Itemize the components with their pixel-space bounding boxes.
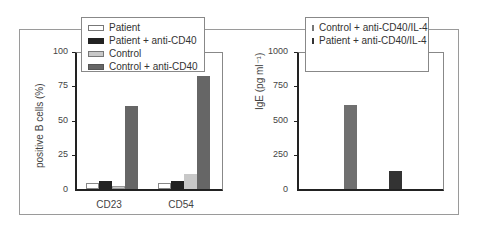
bar-control-anti-cd40-il4 <box>344 105 357 189</box>
legend-item-patient-anti-cd40-il4: Patient + anti-CD40/IL-4 <box>312 34 422 47</box>
right-tick-label-1000: 1000 <box>258 46 288 56</box>
bar-cd54-control <box>184 174 197 189</box>
legend-item-patient: Patient <box>88 21 198 34</box>
legend-swatch-icon <box>312 38 314 44</box>
legend-item-control: Control <box>88 47 198 60</box>
right-tick-label-0: 0 <box>258 184 288 194</box>
legend-label: Patient <box>109 22 140 33</box>
bar-cd54-patient-anti-cd40 <box>171 181 184 189</box>
right-plot-area <box>297 52 444 191</box>
bar-cd23-patient-anti-cd40 <box>99 181 112 189</box>
legend-item-control-anti-cd40-il4: Control + anti-CD40/IL-4 <box>312 21 422 34</box>
legend-label: Patient + anti-CD40 <box>109 35 197 46</box>
left-x-label-cd23: CD23 <box>89 199 129 210</box>
legend-item-control-anti-cd40: Control + anti-CD40 <box>88 60 198 73</box>
legend-swatch-icon <box>88 25 104 31</box>
left-tick-label-100: 100 <box>38 46 68 56</box>
right-legend: Control + anti-CD40/IL-4 Patient + anti-… <box>305 17 429 72</box>
left-tick-label-25: 25 <box>38 149 68 159</box>
legend-item-patient-anti-cd40: Patient + anti-CD40 <box>88 34 198 47</box>
right-tick-label-750: 750 <box>258 80 288 90</box>
legend-label: Control <box>109 48 141 59</box>
bar-cd54-patient <box>158 183 171 189</box>
legend-label: Control + anti-CD40 <box>109 61 198 72</box>
bar-cd23-control-anti-cd40 <box>125 106 138 189</box>
legend-swatch-icon <box>312 25 314 31</box>
legend-swatch-icon <box>88 51 104 57</box>
legend-label: Patient + anti-CD40/IL-4 <box>319 35 427 46</box>
left-tick-label-0: 0 <box>38 184 68 194</box>
bar-patient-anti-cd40-il4 <box>389 171 402 189</box>
bar-cd54-control-anti-cd40 <box>197 76 210 189</box>
right-tick-label-250: 250 <box>258 149 288 159</box>
bar-cd23-control <box>112 186 125 189</box>
right-tick-label-500: 500 <box>258 115 288 125</box>
left-tick-label-75: 75 <box>38 80 68 90</box>
left-legend: Patient Patient + anti-CD40 Control Cont… <box>81 17 205 72</box>
bar-cd23-patient <box>86 183 99 189</box>
legend-swatch-icon <box>88 64 104 70</box>
legend-label: Control + anti-CD40/IL-4 <box>319 22 428 33</box>
legend-swatch-icon <box>88 38 104 44</box>
left-tick-label-50: 50 <box>38 115 68 125</box>
left-x-label-cd54: CD54 <box>161 199 201 210</box>
